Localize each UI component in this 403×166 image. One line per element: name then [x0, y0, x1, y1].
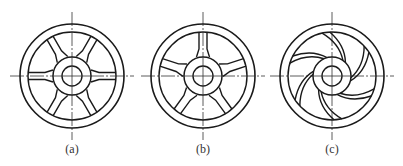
- curved-spoke-edge: [300, 74, 313, 106]
- panel-label-a: (a): [52, 142, 92, 157]
- spoke-edge: [47, 89, 57, 112]
- spoke-edge: [87, 89, 97, 112]
- panel-label-c: (c): [312, 142, 352, 157]
- wheel-a: [10, 12, 134, 140]
- spoke-edge: [160, 66, 183, 76]
- spoke-edge: [28, 70, 53, 73]
- spoke-edge: [174, 88, 187, 110]
- spoke-edge: [91, 70, 116, 73]
- spoke-edge: [207, 32, 210, 57]
- spoke-edge: [91, 80, 116, 83]
- spoke-edge: [87, 40, 97, 63]
- curved-spoke-edge: [351, 46, 364, 78]
- spoke-edge: [223, 66, 246, 76]
- spoke-edge: [219, 88, 232, 110]
- panel-label-b: (b): [183, 142, 223, 157]
- spoke-edge: [47, 40, 57, 63]
- spoke-edge: [28, 80, 53, 83]
- spoke-edge: [197, 32, 200, 57]
- wheel-c: [270, 12, 394, 140]
- wheel-b: [141, 12, 265, 140]
- spoke-edge: [162, 59, 187, 64]
- spoke-edge: [219, 59, 244, 64]
